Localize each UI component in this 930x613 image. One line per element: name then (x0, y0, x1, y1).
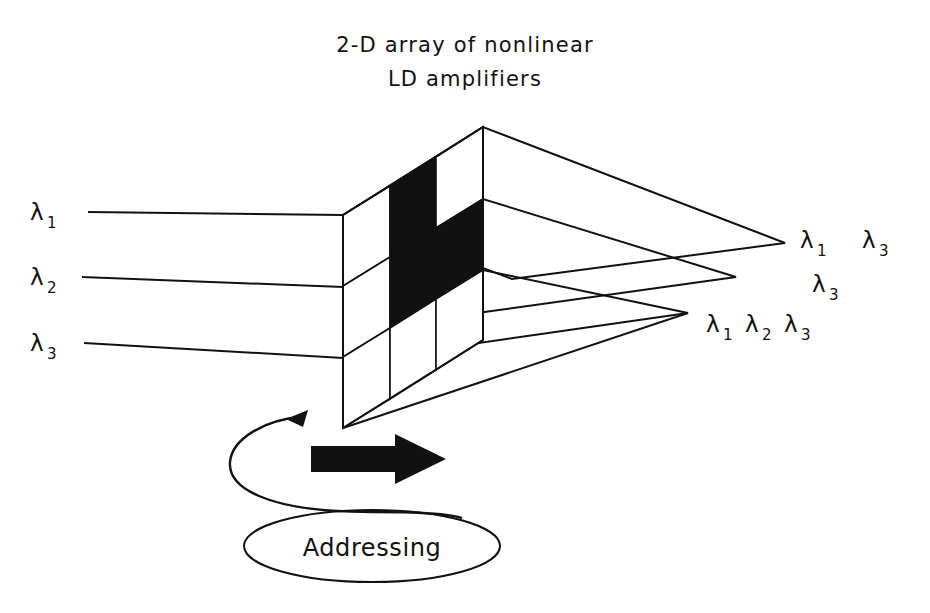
output-group-bottom: λ 1 λ 2 λ 3 (706, 311, 811, 344)
lambda-symbol: λ (745, 311, 759, 337)
diagram-canvas: 2-D array of nonlinear LD amplifiers (0, 0, 930, 613)
lambda-subscript: 1 (47, 214, 57, 232)
lambda-subscript: 3 (879, 242, 889, 260)
lambda-subscript: 1 (723, 326, 733, 344)
figure-container: 2-D array of nonlinear LD amplifiers (0, 0, 930, 613)
lambda-subscript: 1 (817, 242, 827, 260)
lambda-subscript: 2 (47, 279, 57, 297)
figure-title-line-1: 2-D array of nonlinear (336, 33, 594, 57)
lambda-symbol: λ (30, 199, 44, 225)
lambda-symbol: λ (812, 271, 826, 297)
lambda-subscript: 3 (829, 286, 839, 304)
output-group-top: λ 1 λ 3 (800, 227, 889, 260)
addressing-curve-arrowhead (286, 410, 308, 427)
lambda-symbol: λ (30, 264, 44, 290)
figure-title-line-2: LD amplifiers (388, 67, 542, 91)
lambda-subscript: 3 (47, 345, 57, 363)
lambda-subscript: 2 (762, 326, 772, 344)
lambda-subscript: 3 (801, 326, 811, 344)
output-group-middle: λ 3 (812, 271, 839, 304)
amplifier-array-panel (343, 127, 483, 428)
lambda-symbol: λ (706, 311, 720, 337)
lambda-symbol: λ (30, 330, 44, 356)
lambda-symbol: λ (862, 227, 876, 253)
addressing-label: Addressing (303, 534, 442, 562)
input-label-1: λ 1 (30, 199, 57, 232)
input-label-2: λ 2 (30, 264, 57, 297)
addressing-block-arrow (311, 434, 446, 484)
lambda-symbol: λ (800, 227, 814, 253)
lambda-symbol: λ (784, 311, 798, 337)
input-label-3: λ 3 (30, 330, 57, 363)
